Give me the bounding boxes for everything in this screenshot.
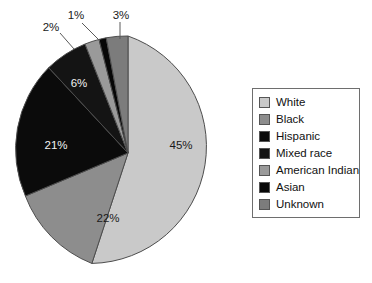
- legend-label-hispanic: Hispanic: [276, 130, 320, 142]
- legend-label-unknown: Unknown: [276, 198, 324, 210]
- pie-label-black: 22%: [96, 212, 119, 224]
- legend-label-american-indian: American Indian: [276, 164, 359, 176]
- pie-label-asian: 1%: [68, 9, 85, 21]
- legend-swatch-american-indian: [259, 165, 270, 176]
- legend-swatch-hispanic: [259, 131, 270, 142]
- legend-label-black: Black: [276, 113, 304, 125]
- legend-swatch-mixed-race: [259, 148, 270, 159]
- leader-line-asian: [82, 23, 100, 41]
- legend-item-black[interactable]: Black: [259, 111, 352, 127]
- leader-line-american-indian: [60, 33, 74, 49]
- legend-swatch-unknown: [259, 199, 270, 210]
- legend-item-american-indian[interactable]: American Indian: [259, 162, 352, 178]
- legend-item-mixed-race[interactable]: Mixed race: [259, 145, 352, 161]
- pie-label-white: 45%: [169, 139, 192, 151]
- legend: White Black Hispanic Mixed race American…: [252, 88, 360, 218]
- pie-chart-figure: 45% 22% 21% 6% 2% 1% 3% White Black Hisp…: [0, 0, 372, 283]
- pie-label-hispanic: 21%: [44, 139, 67, 151]
- pie-label-unknown: 3%: [113, 9, 130, 21]
- legend-swatch-asian: [259, 182, 270, 193]
- legend-label-asian: Asian: [276, 181, 305, 193]
- legend-swatch-black: [259, 114, 270, 125]
- legend-item-unknown[interactable]: Unknown: [259, 196, 352, 212]
- legend-label-white: White: [276, 96, 305, 108]
- legend-item-white[interactable]: White: [259, 94, 352, 110]
- legend-item-asian[interactable]: Asian: [259, 179, 352, 195]
- pie-label-american-indian: 2%: [43, 21, 60, 33]
- pie-label-mixed-race: 6%: [71, 77, 88, 89]
- legend-label-mixed-race: Mixed race: [276, 147, 332, 159]
- legend-item-hispanic[interactable]: Hispanic: [259, 128, 352, 144]
- legend-swatch-white: [259, 97, 270, 108]
